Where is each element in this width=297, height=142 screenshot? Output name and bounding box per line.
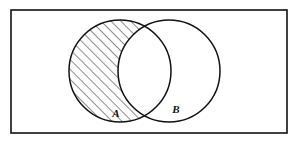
shaded-region-a-minus-b [67,18,173,124]
venn-diagram-canvas: A B [0,0,297,142]
set-b-label: B [171,103,179,115]
set-a-label: A [111,107,119,119]
venn-diagram-figure: A B [0,0,297,142]
